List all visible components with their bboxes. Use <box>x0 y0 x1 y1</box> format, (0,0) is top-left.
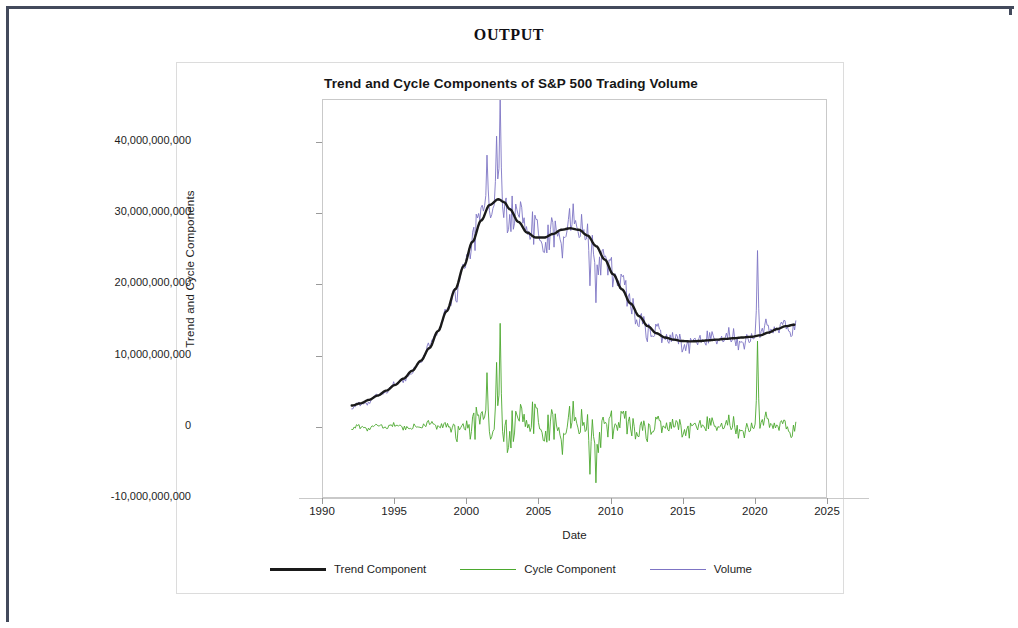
x-tick-mark <box>394 498 395 504</box>
cycle-series-line <box>352 323 796 483</box>
plot-svg <box>323 100 826 497</box>
x-tick-label: 2025 <box>797 505 857 517</box>
chart-legend: Trend ComponentCycle ComponentVolume <box>177 563 845 575</box>
x-tick-label: 2010 <box>581 505 641 517</box>
plot-area <box>322 99 827 498</box>
legend-label: Volume <box>714 563 752 575</box>
x-tick-label: 2005 <box>508 505 568 517</box>
x-tick-label: 2020 <box>725 505 785 517</box>
x-axis-label: Date <box>322 529 827 541</box>
y-tick-label: 40,000,000,000 <box>41 134 191 146</box>
legend-item[interactable]: Trend Component <box>270 563 426 575</box>
page-border-bottom-cap <box>6 614 9 622</box>
x-tick-mark <box>683 498 684 504</box>
x-tick-mark <box>755 498 756 504</box>
legend-item[interactable]: Cycle Component <box>460 563 615 575</box>
y-tick-label: 30,000,000,000 <box>41 205 191 217</box>
legend-swatch-icon <box>270 568 326 571</box>
chart-frame: Trend and Cycle Components of S&P 500 Tr… <box>176 62 844 594</box>
x-tick-label: 1995 <box>364 505 424 517</box>
page-border-right-cap <box>1009 6 1012 15</box>
x-tick-mark <box>538 498 539 504</box>
y-tick-label: 0 <box>41 419 191 431</box>
y-tick-label: 10,000,000,000 <box>41 348 191 360</box>
x-tick-label: 1990 <box>292 505 352 517</box>
x-tick-label: 2000 <box>436 505 496 517</box>
x-tick-mark <box>466 498 467 504</box>
legend-swatch-icon <box>650 569 706 570</box>
legend-label: Cycle Component <box>524 563 615 575</box>
legend-swatch-icon <box>460 569 516 570</box>
trend-series-line <box>352 199 795 405</box>
y-tick-label: 20,000,000,000 <box>41 276 191 288</box>
x-tick-mark <box>322 498 323 504</box>
legend-item[interactable]: Volume <box>650 563 752 575</box>
x-axis-line <box>299 498 869 499</box>
x-tick-mark <box>611 498 612 504</box>
x-tick-label: 2015 <box>653 505 713 517</box>
x-tick-mark <box>827 498 828 504</box>
chart-title: Trend and Cycle Components of S&P 500 Tr… <box>177 76 845 91</box>
legend-label: Trend Component <box>334 563 426 575</box>
output-heading: OUTPUT <box>0 26 1018 44</box>
y-tick-label: -10,000,000,000 <box>41 490 191 502</box>
